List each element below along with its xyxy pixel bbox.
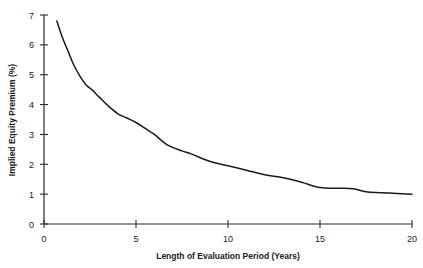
x-axis-title: Length of Evaluation Period (Years): [156, 251, 300, 261]
chart-container: 01234567 Implied Equity Premium (%) 0510…: [0, 0, 423, 268]
y-tick-label: 5: [29, 70, 34, 80]
series-line-implied-equity-premium: [57, 21, 412, 194]
y-tick-label: 7: [29, 11, 34, 21]
y-tick-label: 6: [29, 40, 34, 50]
y-tick-labels: 01234567: [29, 11, 34, 230]
x-tick-label: 10: [223, 234, 233, 244]
x-tick-label: 15: [315, 234, 325, 244]
plot-area: [57, 21, 412, 194]
x-tick-label: 0: [41, 234, 46, 244]
y-tick-label: 4: [29, 100, 34, 110]
x-tick-label: 5: [133, 234, 138, 244]
y-axis-group: 01234567 Implied Equity Premium (%): [7, 11, 48, 230]
x-tick-labels: 05101520: [41, 234, 417, 244]
y-tick-label: 2: [29, 160, 34, 170]
y-tick-label: 0: [29, 220, 34, 230]
y-tick-label: 1: [29, 190, 34, 200]
x-tick-label: 20: [407, 234, 417, 244]
y-tick-label: 3: [29, 130, 34, 140]
x-axis-group: 05101520 Length of Evaluation Period (Ye…: [41, 220, 417, 261]
y-axis-title: Implied Equity Premium (%): [7, 64, 17, 177]
chart-svg: 01234567 Implied Equity Premium (%) 0510…: [0, 0, 423, 268]
